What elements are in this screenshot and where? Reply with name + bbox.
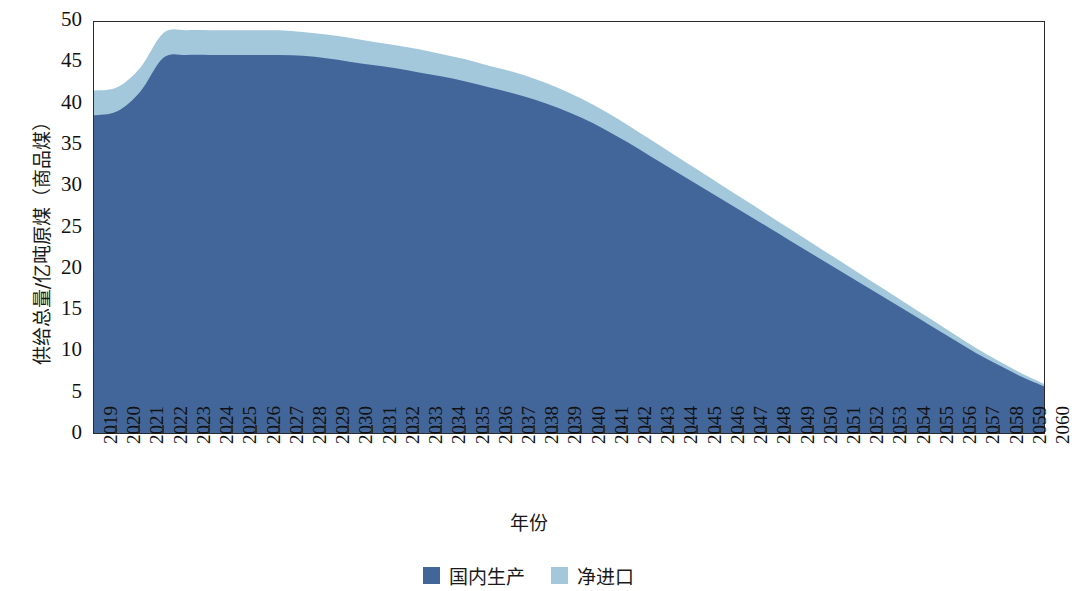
x-tick-label: 2024	[216, 406, 238, 444]
area-series-svg	[94, 22, 1045, 434]
x-tick-mark	[464, 425, 466, 434]
legend-item[interactable]: 净进口	[551, 562, 634, 589]
x-tick-label: 2021	[146, 406, 168, 444]
y-tick-label: 0	[72, 420, 83, 445]
x-tick-label: 2025	[239, 406, 261, 444]
legend-item[interactable]: 国内生产	[423, 562, 525, 589]
x-tick-mark	[858, 425, 860, 434]
x-tick-label: 2050	[820, 406, 842, 444]
x-tick-label: 2039	[564, 406, 586, 444]
y-tick-label: 15	[61, 296, 82, 321]
x-tick-mark	[812, 425, 814, 434]
x-tick-mark	[487, 425, 489, 434]
x-tick-mark	[533, 425, 535, 434]
x-tick-label: 2042	[634, 406, 656, 444]
x-tick-label: 2040	[588, 406, 610, 444]
x-tick-mark	[324, 425, 326, 434]
x-tick-label: 2022	[170, 406, 192, 444]
x-tick-mark	[881, 425, 883, 434]
x-tick-mark	[417, 425, 419, 434]
y-axis-title: 供给总量/亿吨原煤（商品煤）	[27, 29, 54, 449]
x-tick-mark	[394, 425, 396, 434]
x-tick-mark	[301, 425, 303, 434]
y-tick-label: 40	[61, 90, 82, 115]
y-tick-label: 35	[61, 131, 82, 156]
x-tick-mark	[138, 425, 140, 434]
x-tick-mark	[440, 425, 442, 434]
x-tick-label: 2060	[1052, 406, 1074, 444]
x-tick-mark	[835, 425, 837, 434]
x-tick-label: 2032	[402, 406, 424, 444]
legend-label: 净进口	[577, 562, 634, 589]
legend-swatch-icon	[423, 567, 440, 584]
x-tick-label: 2047	[750, 406, 772, 444]
x-tick-mark	[998, 425, 1000, 434]
x-tick-mark	[162, 425, 164, 434]
x-tick-label: 2036	[495, 406, 517, 444]
x-tick-label: 2028	[309, 406, 331, 444]
x-tick-mark	[905, 425, 907, 434]
x-tick-mark	[1021, 425, 1023, 434]
x-tick-label: 2030	[355, 406, 377, 444]
x-tick-mark	[928, 425, 930, 434]
x-tick-label: 2023	[193, 406, 215, 444]
x-tick-label: 2048	[773, 406, 795, 444]
x-tick-label: 2044	[680, 406, 702, 444]
x-tick-mark	[510, 425, 512, 434]
x-tick-label: 2046	[727, 406, 749, 444]
x-tick-mark	[765, 425, 767, 434]
y-tick-label: 30	[61, 172, 82, 197]
x-tick-label: 2033	[425, 406, 447, 444]
y-tick-label: 25	[61, 214, 82, 239]
x-tick-label: 2049	[797, 406, 819, 444]
x-tick-mark	[278, 425, 280, 434]
y-tick-label: 10	[61, 337, 82, 362]
x-tick-label: 2051	[843, 406, 865, 444]
x-tick-label: 2035	[472, 406, 494, 444]
x-axis-title: 年份	[0, 508, 1057, 535]
x-tick-label: 2058	[1006, 406, 1028, 444]
x-tick-mark	[742, 425, 744, 434]
x-tick-label: 2020	[123, 406, 145, 444]
x-tick-mark	[603, 425, 605, 434]
x-tick-label: 2055	[936, 406, 958, 444]
x-tick-mark	[789, 425, 791, 434]
x-tick-mark	[696, 425, 698, 434]
x-tick-mark	[231, 425, 233, 434]
y-tick-label: 5	[72, 379, 83, 404]
x-tick-mark	[974, 425, 976, 434]
y-tick-label: 20	[61, 255, 82, 280]
x-tick-mark	[556, 425, 558, 434]
x-tick-label: 2038	[541, 406, 563, 444]
x-tick-label: 2045	[704, 406, 726, 444]
y-tick-label: 50	[61, 7, 82, 32]
x-tick-label: 2027	[286, 406, 308, 444]
x-tick-mark	[115, 425, 117, 434]
chart-legend: 国内生产净进口	[0, 562, 1057, 589]
x-tick-label: 2041	[611, 406, 633, 444]
x-tick-label: 2043	[657, 406, 679, 444]
x-tick-label: 2059	[1029, 406, 1051, 444]
x-tick-label: 2031	[379, 406, 401, 444]
x-tick-label: 2034	[448, 406, 470, 444]
legend-label: 国内生产	[449, 562, 525, 589]
plot-area	[93, 21, 1045, 434]
x-tick-label: 2026	[263, 406, 285, 444]
x-tick-mark	[347, 425, 349, 434]
x-tick-mark	[672, 425, 674, 434]
x-tick-mark	[208, 425, 210, 434]
x-tick-mark	[951, 425, 953, 434]
x-tick-mark	[185, 425, 187, 434]
x-tick-mark	[626, 425, 628, 434]
y-tick-label: 45	[61, 48, 82, 73]
x-tick-label: 2037	[518, 406, 540, 444]
x-tick-label: 2057	[982, 406, 1004, 444]
legend-swatch-icon	[551, 567, 568, 584]
x-tick-mark	[371, 425, 373, 434]
x-tick-mark	[255, 425, 257, 434]
x-tick-label: 2052	[866, 406, 888, 444]
x-tick-mark	[719, 425, 721, 434]
x-tick-label: 2019	[100, 406, 122, 444]
x-tick-label: 2056	[959, 406, 981, 444]
